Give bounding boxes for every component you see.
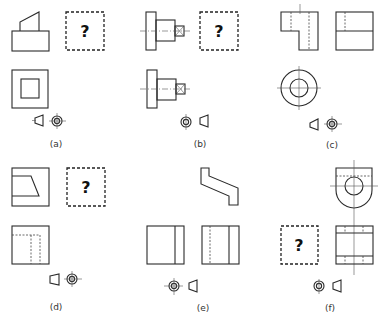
panel-d: ? (d) — [12, 168, 105, 312]
top-view — [336, 226, 373, 264]
truncated-cone-icon — [50, 274, 59, 285]
panel-b: ? (b) — [140, 12, 238, 149]
front-view — [12, 12, 49, 51]
bottom-view — [140, 70, 192, 108]
truncated-cone-icon — [200, 115, 208, 127]
question-mark: ? — [294, 236, 303, 255]
projection-symbol — [310, 116, 342, 132]
top-view — [277, 66, 321, 110]
missing-view-box: ? — [281, 226, 318, 264]
truncated-cone-icon — [310, 119, 318, 130]
question-mark: ? — [81, 178, 90, 197]
concentric-circles-icon — [64, 271, 82, 287]
projection-symbol — [50, 271, 82, 287]
front-view — [147, 226, 184, 264]
front-view — [12, 168, 49, 206]
concentric-circles-icon — [314, 279, 324, 294]
truncated-cone-icon — [333, 280, 341, 292]
missing-view-box: ? — [66, 12, 104, 50]
top-view — [12, 226, 49, 264]
concentric-circles-icon — [181, 114, 191, 130]
front-view — [140, 12, 191, 50]
caption-a: (a) — [50, 139, 63, 149]
question-mark: ? — [80, 22, 89, 41]
caption-b: (b) — [194, 139, 207, 149]
caption-e: (e) — [197, 303, 210, 313]
panel-c: (c) — [277, 4, 373, 150]
side-view — [336, 12, 373, 50]
panel-f: ? (f) — [281, 160, 378, 313]
top-view — [201, 168, 238, 205]
concentric-circles-icon — [164, 278, 183, 295]
panel-e: (e) — [147, 168, 239, 313]
truncated-cone-icon — [189, 280, 197, 292]
projection-symbol — [314, 279, 341, 294]
projection-symbol — [164, 278, 197, 295]
side-view — [202, 226, 239, 264]
front-view — [281, 4, 318, 50]
caption-f: (f) — [325, 303, 335, 313]
truncated-cone-icon — [35, 115, 43, 126]
caption-d: (d) — [50, 302, 63, 312]
missing-view-box: ? — [200, 12, 238, 50]
concentric-circles-icon — [324, 116, 342, 132]
front-view — [330, 160, 378, 275]
missing-view-box: ? — [67, 168, 105, 206]
top-view — [12, 70, 48, 108]
caption-c: (c) — [326, 140, 338, 150]
projection-symbol — [32, 113, 66, 129]
panel-a: ? (a) — [12, 12, 104, 149]
projection-symbol — [181, 114, 208, 130]
orthographic-projection-exercises: ? (a) ? — [0, 0, 385, 326]
question-mark: ? — [214, 22, 223, 41]
concentric-circles-icon — [49, 113, 66, 129]
